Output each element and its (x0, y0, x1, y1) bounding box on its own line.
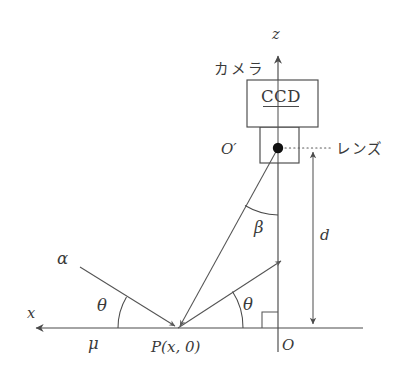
beta-arc (245, 206, 278, 216)
mu-label: μ (88, 334, 99, 353)
diagram-canvas: z x カメラ CCD レンズ O′ O P(x, 0) α β θ θ μ d (0, 0, 415, 380)
theta-left-label: θ (97, 296, 107, 315)
x-axis-label: x (27, 305, 35, 321)
theta-left-arc (118, 297, 127, 328)
label-group: z x カメラ CCD レンズ O′ O P(x, 0) α β θ θ μ d (27, 26, 383, 356)
ccd-label: CCD (261, 87, 301, 106)
theta-right-arc (233, 292, 244, 329)
geometry-figure: z x カメラ CCD レンズ O′ O P(x, 0) α β θ θ μ d (0, 0, 415, 380)
beta-label: β (253, 218, 264, 237)
point-p-label: P(x, 0) (150, 338, 200, 356)
optical-centre-dot (273, 143, 283, 153)
origin-prime-label: O′ (221, 140, 237, 158)
camera-label: カメラ (214, 61, 265, 77)
distance-d-label: d (320, 226, 330, 244)
right-angle-marker (262, 312, 278, 328)
right-angle-square (262, 312, 278, 328)
theta-right-label: θ (243, 295, 253, 314)
origin-label: O (282, 336, 294, 354)
lens-label: レンズ (336, 141, 383, 157)
incident-ray-alpha (80, 267, 175, 326)
reflected-ray (178, 261, 281, 328)
z-axis-label: z (271, 26, 280, 42)
alpha-label: α (57, 249, 68, 268)
sight-line-p-to-oprime (180, 148, 278, 326)
